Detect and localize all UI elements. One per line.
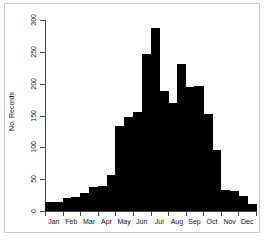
y-axis-tick-label: 0 [20, 206, 38, 216]
y-axis-tick-label: 250 [20, 47, 38, 57]
x-axis-tick-label: Aug [171, 218, 183, 225]
x-axis-tick-label: Jun [136, 218, 147, 225]
y-axis-tick-label-text: 0 [30, 209, 38, 213]
x-axis-tick-label: Dec [241, 218, 253, 225]
y-axis-tick-label-text: 250 [30, 46, 38, 58]
y-axis-tick-label: 100 [20, 142, 38, 152]
y-axis-tick-label-text: 50 [30, 175, 38, 183]
y-axis-tick-label-text: 150 [30, 110, 38, 122]
x-axis-tick [168, 211, 169, 216]
x-axis-tick-label: Oct [207, 218, 218, 225]
x-axis-tick-label: Mar [83, 218, 95, 225]
y-axis-tick [40, 20, 45, 21]
y-axis-tick-label: 200 [20, 79, 38, 89]
x-axis-tick [256, 211, 257, 216]
x-axis-tick [238, 211, 239, 216]
x-axis-tick [221, 211, 222, 216]
y-axis-tick [40, 84, 45, 85]
y-axis-tick-label-text: 300 [30, 14, 38, 26]
x-axis-tick-label: Nov [223, 218, 235, 225]
x-axis-tick-label: May [118, 218, 131, 225]
y-axis-tick [40, 52, 45, 53]
x-axis-tick [151, 211, 152, 216]
histogram-bar [247, 204, 256, 211]
y-axis-tick-label-text: 100 [30, 141, 38, 153]
x-axis-tick-label: Sep [188, 218, 200, 225]
y-axis-title: No. Records [8, 92, 15, 131]
y-axis-tick [40, 147, 45, 148]
y-axis-tick [40, 179, 45, 180]
x-axis-tick-label: Jan [48, 218, 59, 225]
x-axis-tick [80, 211, 81, 216]
histogram-plot: No. Records 050100150200250300 JanFebMar… [0, 0, 265, 246]
y-axis-tick [40, 116, 45, 117]
x-axis-tick [45, 211, 46, 216]
y-axis-tick-label: 300 [20, 15, 38, 25]
x-axis-tick [203, 211, 204, 216]
y-axis-line [45, 20, 46, 212]
y-axis-tick-label: 50 [20, 174, 38, 184]
x-axis-tick [115, 211, 116, 216]
x-axis-tick-label: Feb [65, 218, 77, 225]
y-axis-tick-label-text: 200 [30, 78, 38, 90]
x-axis-tick [186, 211, 187, 216]
x-axis-tick-label: Apr [101, 218, 112, 225]
x-axis-tick [63, 211, 64, 216]
x-axis-tick [98, 211, 99, 216]
x-axis-tick-label: Jul [155, 218, 164, 225]
x-axis-tick [133, 211, 134, 216]
chart-screenshot: No. Records 050100150200250300 JanFebMar… [0, 0, 265, 246]
y-axis-tick-label: 150 [20, 111, 38, 121]
